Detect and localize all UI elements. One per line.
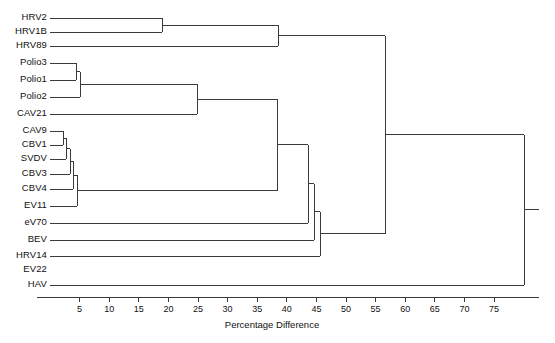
axis-tick-label: 45 bbox=[302, 305, 330, 314]
axis-tick-label: 60 bbox=[391, 305, 419, 314]
axis-group bbox=[37, 297, 539, 302]
leaf-label: EV11 bbox=[24, 200, 47, 210]
leaf-label: SVDV bbox=[21, 153, 47, 163]
axis-tick-label: 5 bbox=[66, 305, 94, 314]
leaf-label: EV22 bbox=[23, 264, 47, 274]
axis-tick-label: 20 bbox=[154, 305, 182, 314]
axis-tick-label: 40 bbox=[273, 305, 301, 314]
leaf-label: HRV89 bbox=[16, 40, 47, 50]
dendrogram-figure: HRV2HRV1BHRV89Polio3Polio1Polio2CAV21CAV… bbox=[0, 0, 555, 343]
leaf-label: HAV bbox=[28, 279, 47, 289]
leaf-label: eV70 bbox=[24, 217, 47, 227]
axis-tick-label: 75 bbox=[480, 305, 508, 314]
leaf-label: Polio2 bbox=[20, 91, 47, 101]
axis-tick-label: 65 bbox=[421, 305, 449, 314]
axis-tick-label: 70 bbox=[450, 305, 478, 314]
leaf-label: CAV9 bbox=[22, 125, 47, 135]
leaf-label: CAV21 bbox=[17, 108, 47, 118]
leaf-label: CBV3 bbox=[22, 168, 47, 178]
dendrogram-branches bbox=[50, 18, 539, 285]
leaf-label: CBV4 bbox=[22, 183, 47, 193]
axis-tick-label: 10 bbox=[95, 305, 123, 314]
axis-tick-label: 50 bbox=[332, 305, 360, 314]
leaf-label: BEV bbox=[28, 234, 47, 244]
dendrogram-canvas bbox=[0, 0, 555, 343]
axis-tick-label: 55 bbox=[362, 305, 390, 314]
x-axis-title: Percentage Difference bbox=[50, 319, 494, 330]
axis-tick-label: 25 bbox=[184, 305, 212, 314]
axis-tick-label: 15 bbox=[125, 305, 153, 314]
leaf-label: Polio3 bbox=[20, 57, 47, 67]
axis-tick-label: 35 bbox=[243, 305, 271, 314]
leaf-label: HRV1B bbox=[15, 26, 47, 36]
leaf-label: HRV14 bbox=[16, 250, 47, 260]
leaf-label: CBV1 bbox=[22, 139, 47, 149]
leaf-label: HRV2 bbox=[21, 12, 47, 22]
leaf-label: Polio1 bbox=[20, 74, 47, 84]
axis-tick-label: 30 bbox=[214, 305, 242, 314]
